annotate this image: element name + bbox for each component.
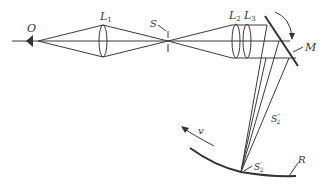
- label-mirror: M: [304, 41, 317, 54]
- optics-diagram: O L1 S L2 L3 M S''2: [0, 0, 322, 188]
- reflected-rays: [241, 25, 289, 172]
- label-observer: O: [27, 22, 36, 35]
- label-velocity: v: [198, 125, 204, 136]
- label-lens1: L1: [99, 10, 112, 24]
- observer-eye-icon: [26, 35, 33, 47]
- mirror-leader: [293, 47, 303, 52]
- label-image-primary: S'2: [254, 160, 264, 173]
- label-lens2: L2: [228, 9, 241, 23]
- label-image-secondary: S''2: [271, 112, 281, 125]
- label-slit: S: [150, 18, 157, 29]
- image-leader: [244, 166, 252, 171]
- label-lens3: L3: [243, 9, 256, 23]
- screen-leader: [289, 163, 298, 176]
- label-screen: R: [297, 154, 306, 165]
